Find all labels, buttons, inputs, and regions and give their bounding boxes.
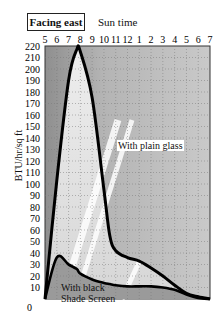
- y-tick-label: 150: [25, 121, 40, 132]
- y-tick-label: 200: [25, 64, 40, 75]
- x-axis-ticks: 567891011121234567: [43, 34, 213, 45]
- x-tick-label: 7: [66, 34, 71, 45]
- shade-screen-annotation: With black Shade Screen: [60, 282, 116, 304]
- x-tick-label: 5: [184, 34, 189, 45]
- y-tick-label: 120: [25, 156, 40, 167]
- y-tick-label: 220: [25, 41, 40, 52]
- y-tick-label: 90: [30, 190, 40, 201]
- x-axis-title: Sun time: [98, 16, 137, 28]
- x-tick-label: 1: [137, 34, 142, 45]
- y-axis-title: BTU/hr/sq ft: [13, 126, 24, 186]
- y-tick-label: 80: [30, 202, 40, 213]
- shade-annotation-line2: Shade Screen: [61, 293, 115, 304]
- y-axis-ticks: 0102030405060708090100110120130140150160…: [25, 41, 40, 314]
- y-tick-label: 10: [30, 282, 40, 293]
- x-tick-label: 2: [149, 34, 154, 45]
- y-tick-label: 50: [30, 236, 40, 247]
- y-tick-label: 0: [27, 302, 32, 313]
- x-tick-label: 3: [160, 34, 165, 45]
- plain-glass-annotation: With plain glass: [117, 140, 184, 151]
- x-tick-label: 5: [43, 34, 48, 45]
- x-tick-label: 9: [90, 34, 95, 45]
- x-tick-label: 8: [78, 34, 83, 45]
- y-tick-label: 30: [30, 259, 40, 270]
- x-tick-label: 12: [123, 34, 133, 45]
- y-tick-label: 190: [25, 75, 40, 86]
- y-tick-label: 140: [25, 133, 40, 144]
- x-tick-label: 10: [99, 34, 109, 45]
- y-tick-label: 60: [30, 225, 40, 236]
- shade-annotation-line1: With black: [61, 282, 115, 293]
- y-tick-label: 170: [25, 98, 40, 109]
- y-tick-label: 180: [25, 87, 40, 98]
- y-tick-label: 70: [30, 213, 40, 224]
- x-tick-label: 6: [196, 34, 201, 45]
- y-tick-label: 20: [30, 271, 40, 282]
- y-tick-label: 40: [30, 248, 40, 259]
- x-tick-label: 7: [208, 34, 213, 45]
- y-tick-label: 130: [25, 144, 40, 155]
- x-tick-label: 4: [172, 34, 177, 45]
- x-tick-label: 11: [111, 34, 121, 45]
- chart: 567891011121234567 010203040506070809010…: [0, 0, 224, 327]
- y-tick-label: 110: [25, 167, 40, 178]
- x-tick-label: 6: [54, 34, 59, 45]
- y-tick-label: 160: [25, 110, 40, 121]
- y-tick-label: 100: [25, 179, 40, 190]
- facing-label: Facing east: [27, 13, 85, 31]
- y-tick-label: 210: [25, 52, 40, 63]
